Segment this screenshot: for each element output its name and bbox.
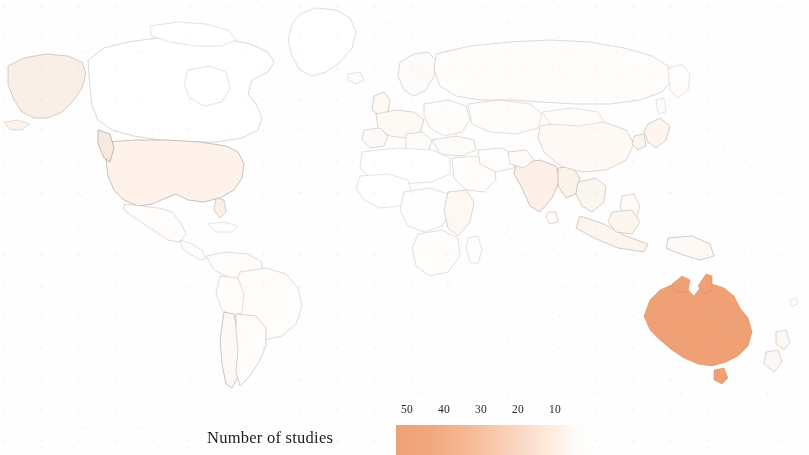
- country-canada: [88, 36, 274, 142]
- country-russia: [434, 40, 672, 104]
- country-mexico: [124, 204, 186, 242]
- legend-tick-3: 20: [512, 403, 524, 415]
- region-central-asia: [468, 100, 542, 134]
- island-tasmania: [714, 368, 728, 384]
- country-china: [538, 120, 634, 172]
- legend-colorbar: [396, 425, 590, 455]
- country-india: [514, 160, 560, 212]
- australia-arnhem-land: [672, 276, 690, 292]
- country-peru-bolivia: [216, 276, 244, 318]
- caribbean-islands: [208, 222, 238, 232]
- legend-tick-4: 10: [549, 403, 561, 415]
- legend-gradient-bar: [396, 425, 590, 455]
- country-australia: [644, 284, 752, 366]
- country-sri-lanka: [546, 212, 558, 224]
- island-fiji-pacific: [790, 298, 798, 306]
- region-east-africa: [444, 190, 474, 236]
- country-greenland: [288, 8, 356, 76]
- country-united-states: [106, 140, 244, 206]
- region-eastern-europe: [424, 100, 470, 136]
- island-sakhalin: [656, 98, 666, 114]
- legend-title: Number of studies: [207, 428, 333, 448]
- region-scandinavia: [398, 52, 436, 96]
- figure-canvas: 50 40 30 20 10 Number of studies: [0, 0, 809, 455]
- central-america: [180, 240, 206, 260]
- country-new-zealand-south: [764, 350, 782, 372]
- region-southern-africa: [412, 230, 460, 276]
- legend-tick-0: 50: [401, 403, 413, 415]
- country-argentina: [236, 314, 266, 386]
- world-map: [0, 0, 809, 455]
- country-papua-new-guinea: [666, 236, 714, 260]
- us-west-coast-strip: [98, 130, 114, 162]
- island-iceland: [348, 72, 364, 84]
- country-korea: [632, 134, 646, 150]
- region-indochina: [576, 178, 606, 212]
- country-new-zealand-north: [776, 330, 790, 350]
- aleutian-chain: [4, 120, 30, 130]
- legend-tick-1: 40: [438, 403, 450, 415]
- legend-tick-2: 30: [475, 403, 487, 415]
- region-mongolia: [542, 108, 604, 126]
- legend-tick-labels: 50 40 30 20 10: [396, 403, 596, 418]
- florida-peninsula: [214, 198, 226, 218]
- country-japan: [644, 118, 670, 148]
- country-alaska: [8, 54, 86, 118]
- country-madagascar: [466, 236, 482, 264]
- region-kamchatka: [668, 64, 690, 98]
